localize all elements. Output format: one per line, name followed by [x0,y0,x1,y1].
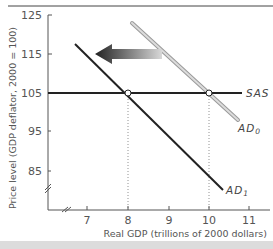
x-tick-10: 10 [202,214,216,227]
ad0-curve [132,23,238,120]
ad-sas-chart: 125 115 105 95 85 7 8 9 10 11 Real GDP (… [0,0,273,249]
x-axis [48,206,270,212]
x-tick-9: 9 [166,214,173,227]
equilibrium-point-ad0 [206,90,212,96]
y-tick-105: 105 [21,87,42,100]
y-axis [45,15,52,210]
x-tick-11: 11 [242,214,256,227]
x-tick-7: 7 [84,214,91,227]
y-axis-title: Price level (GDP deflator, 2000 = 100) [7,27,18,209]
equilibrium-point-ad1 [125,90,131,96]
bottom-band [0,241,273,249]
shift-left-arrow [95,44,162,64]
y-tick-125: 125 [21,9,42,22]
y-tick-115: 115 [21,48,42,61]
ad1-curve [75,44,223,190]
ad0-label: AD0 [237,122,261,136]
x-axis-title: Real GDP (trillions of 2000 dollars) [104,228,268,239]
x-tick-8: 8 [125,214,132,227]
ad1-label: AD1 [225,184,249,198]
y-tick-85: 85 [28,165,42,178]
sas-label: SAS [246,87,270,99]
y-tick-95: 95 [28,125,42,138]
